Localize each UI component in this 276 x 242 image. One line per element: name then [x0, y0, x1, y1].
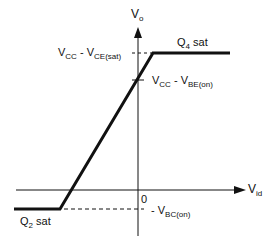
q2-sat-label: Q2 sat	[20, 215, 51, 232]
q4-sat-label: Q4 sat	[177, 36, 208, 53]
q4-label-suffix: sat	[190, 36, 208, 48]
mid-level-sub2: BE(on)	[188, 80, 213, 89]
top-level-label: VCC - VCE(sat)	[58, 46, 121, 63]
origin-label: 0	[141, 193, 147, 205]
x-axis-label-sub: id	[256, 189, 262, 198]
y-axis-label-main: V	[131, 7, 139, 21]
q2-label-main: Q	[20, 215, 29, 227]
q2-label-suffix: sat	[33, 215, 51, 227]
bottom-level-sub: BC(on)	[165, 210, 190, 219]
top-level-sub1: CC	[65, 52, 77, 61]
mid-level-label: VCC - VBE(on)	[152, 74, 213, 91]
top-level-dash: - V	[77, 46, 94, 58]
x-axis-arrow-icon	[234, 186, 246, 194]
y-axis-arrow-icon	[134, 27, 142, 38]
bottom-level-label: - VBC(on)	[151, 204, 190, 221]
top-level-sub2: CE(sat)	[94, 52, 121, 61]
mid-level-dash: - V	[171, 74, 188, 86]
q4-label-main: Q	[177, 36, 186, 48]
x-axis-label-main: V	[248, 182, 256, 196]
mid-level-sub1: CC	[159, 80, 171, 89]
y-axis-label-sub: o	[139, 14, 143, 23]
bottom-level-prefix: - V	[151, 204, 165, 216]
x-axis-label: Vid	[248, 183, 262, 200]
transfer-curve-diagram	[0, 0, 276, 242]
y-axis-label: Vo	[131, 8, 143, 25]
